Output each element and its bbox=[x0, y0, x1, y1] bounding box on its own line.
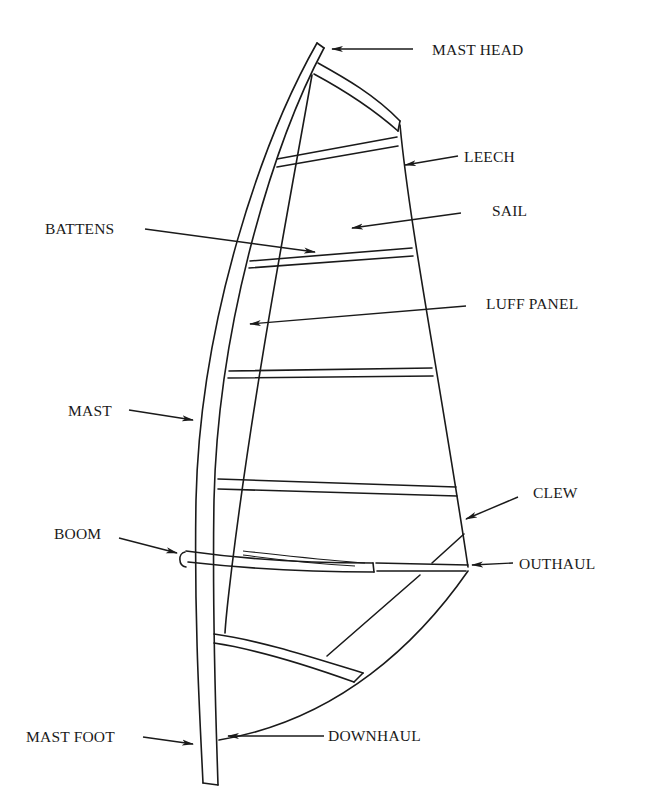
leader-arrows bbox=[119, 49, 518, 744]
label-battens: BATTENS bbox=[45, 220, 114, 237]
label-sail: SAIL bbox=[492, 202, 527, 219]
label-boom: BOOM bbox=[54, 525, 101, 542]
label-outhaul: OUTHAUL bbox=[519, 555, 595, 572]
windsurf-sail-diagram: MAST HEAD LEECH BATTENS SAIL LUFF PANEL … bbox=[0, 0, 649, 789]
sail-head bbox=[314, 63, 400, 131]
leech-edge bbox=[400, 125, 468, 567]
luff-panel-line-lower bbox=[225, 566, 232, 633]
label-luff-panel: LUFF PANEL bbox=[486, 295, 578, 312]
boom-shape bbox=[180, 551, 468, 572]
clew-lines bbox=[327, 534, 464, 656]
label-leech: LEECH bbox=[464, 148, 515, 165]
sail-foot bbox=[219, 571, 468, 740]
label-mast: MAST bbox=[68, 402, 112, 419]
label-mast-head: MAST HEAD bbox=[432, 41, 524, 58]
label-clew: CLEW bbox=[533, 484, 578, 501]
label-downhaul: DOWNHAUL bbox=[328, 727, 421, 744]
label-mast-foot: MAST FOOT bbox=[26, 728, 115, 745]
